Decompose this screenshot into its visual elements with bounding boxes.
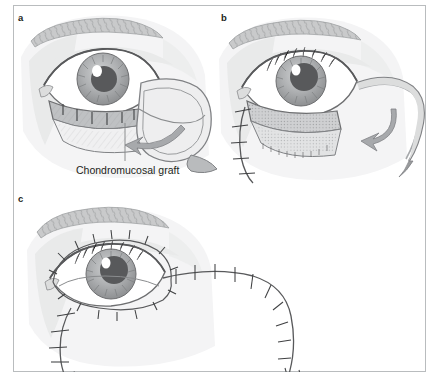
figure-root: a: [0, 0, 439, 386]
panel-c: c: [13, 190, 426, 372]
corneal-highlight: [92, 65, 102, 77]
panel-b: b: [213, 5, 426, 193]
corneal-highlight: [292, 65, 301, 76]
panel-c-illustration: [13, 190, 426, 372]
panel-b-letter: b: [221, 13, 227, 23]
panel-b-illustration: [213, 5, 426, 193]
panel-a-letter: a: [18, 13, 23, 23]
corneal-highlight: [102, 258, 111, 269]
chondromucosal-graft-label: Chondromucosal graft: [76, 165, 179, 176]
panel-a: a: [13, 5, 223, 193]
panel-c-letter: c: [18, 194, 23, 204]
